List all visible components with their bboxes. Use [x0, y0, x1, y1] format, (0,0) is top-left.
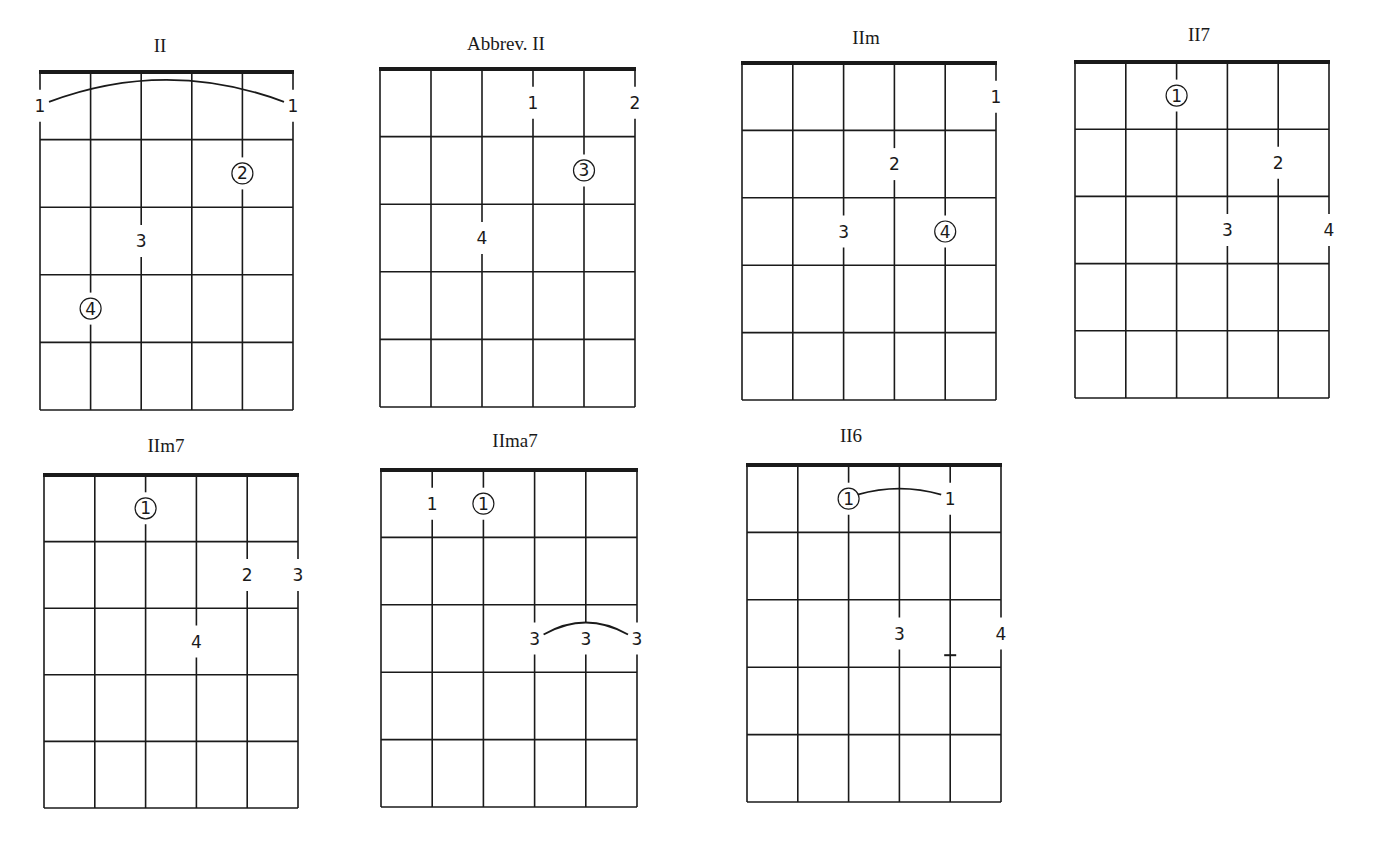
- fretboard-grid: 1234: [365, 64, 650, 412]
- chord-title: IIma7: [492, 430, 537, 452]
- finger-number: 4: [996, 624, 1007, 644]
- fretboard-grid: 11333: [366, 465, 652, 812]
- finger-number: 1: [945, 489, 956, 509]
- finger-number: 2: [237, 163, 248, 183]
- finger-number: 3: [580, 629, 591, 649]
- finger-number: 1: [35, 96, 46, 116]
- finger-number: 3: [632, 629, 643, 649]
- finger-number: 3: [1222, 220, 1233, 240]
- chord-title: II6: [840, 425, 862, 447]
- finger-number: 3: [529, 629, 540, 649]
- finger-number: 4: [940, 222, 951, 242]
- finger-number: 3: [894, 624, 905, 644]
- finger-number: 4: [1324, 220, 1335, 240]
- fretboard-grid: 1134: [732, 460, 1016, 807]
- chord-title: II: [154, 35, 167, 57]
- fretboard-grid: 1234: [727, 58, 1011, 405]
- finger-number: 3: [136, 231, 147, 251]
- finger-number: 4: [477, 228, 488, 248]
- finger-number: 1: [288, 96, 299, 116]
- finger-number: 1: [528, 93, 539, 113]
- finger-number: 1: [1171, 86, 1182, 106]
- fretboard-grid: 1234: [29, 470, 313, 813]
- finger-number: 1: [140, 498, 151, 518]
- fretboard-grid: 1234: [1060, 57, 1344, 403]
- finger-number: 2: [889, 154, 900, 174]
- finger-number: 1: [843, 489, 854, 509]
- finger-number: 2: [242, 565, 253, 585]
- chord-title: IIm: [852, 27, 879, 49]
- finger-number: 1: [427, 494, 438, 514]
- finger-number: 3: [838, 222, 849, 242]
- finger-number: 4: [85, 299, 96, 319]
- chord-title: IIm7: [148, 435, 185, 457]
- finger-number: 2: [1273, 153, 1284, 173]
- chord-title: Abbrev. II: [467, 33, 545, 55]
- finger-number: 2: [630, 93, 641, 113]
- barre-arc: [49, 80, 284, 102]
- finger-number: 1: [991, 87, 1002, 107]
- finger-number: 1: [478, 494, 489, 514]
- finger-number: 3: [293, 565, 304, 585]
- fretboard-grid: 11234: [25, 67, 308, 415]
- finger-number: 4: [191, 632, 202, 652]
- chord-title: II7: [1188, 24, 1210, 46]
- finger-number: 3: [579, 160, 590, 180]
